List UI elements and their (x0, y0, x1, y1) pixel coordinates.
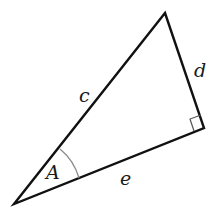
triangle (14, 13, 204, 204)
angle-arc (60, 149, 79, 178)
label-side-d: d (194, 59, 206, 81)
label-angle-a: A (44, 161, 60, 183)
triangle-diagram: A c d e (0, 0, 214, 220)
label-side-c: c (79, 84, 90, 106)
label-side-e: e (120, 167, 131, 189)
